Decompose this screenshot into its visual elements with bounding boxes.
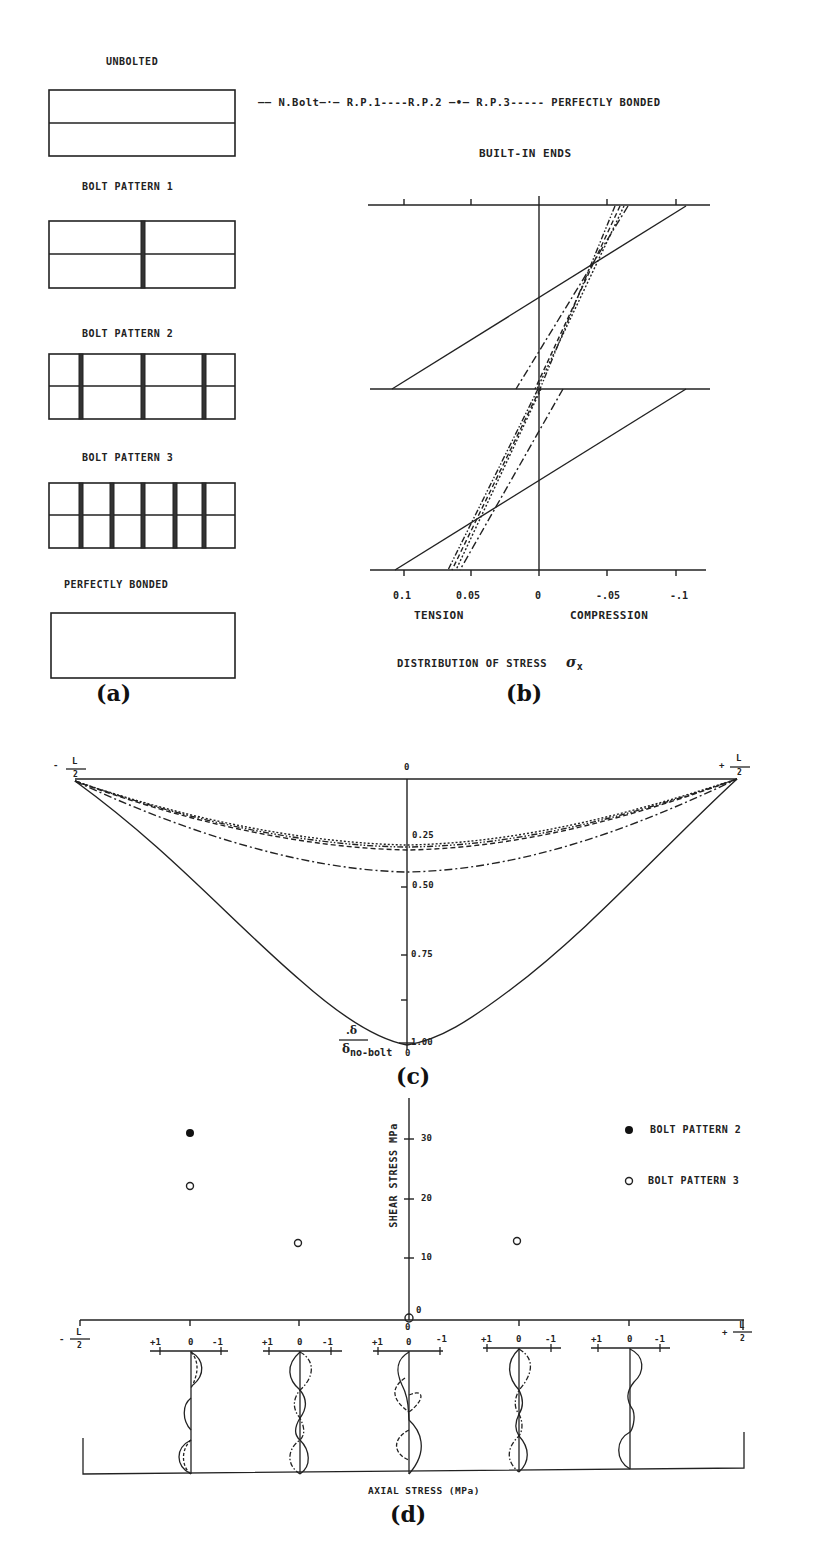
- left-end-d: -: [59, 1334, 64, 1344]
- panel-label-d: (d): [390, 1501, 426, 1527]
- st4-minus: -1: [545, 1334, 556, 1344]
- sigma-subscript: x: [577, 661, 584, 672]
- left-end-d-den: 2: [77, 1341, 82, 1350]
- ytick-c-0.75: 0.75: [411, 949, 433, 959]
- series-rp2-bottom: [452, 389, 540, 570]
- beam-diagrams: [49, 90, 235, 678]
- curve-rp2: [75, 779, 737, 850]
- chart-title-b: BUILT-IN ENDS: [479, 147, 572, 160]
- station-1: [150, 1347, 228, 1474]
- station-5: [591, 1344, 670, 1469]
- beam-bolt-pattern-1: [49, 221, 235, 288]
- ylabel-c-num: .δ: [346, 1024, 357, 1037]
- xtick-neg-0.1: -.1: [670, 590, 688, 601]
- right-end-c-num: L: [736, 753, 741, 763]
- delta-num: δ: [350, 1024, 357, 1037]
- legend-marker-bp2: [625, 1126, 633, 1134]
- st3-plus: +1: [372, 1337, 383, 1347]
- series-n-bolt-bottom: [395, 389, 686, 570]
- left-end-c-den: 2: [73, 770, 78, 779]
- station-3: [373, 1347, 443, 1474]
- st3-minus: -1: [436, 1334, 447, 1344]
- st4-plus: +1: [481, 1334, 492, 1344]
- xlabel-d: AXIAL STRESS (MPa): [368, 1485, 480, 1496]
- origin-label-d: 0: [405, 1322, 410, 1332]
- series-rp1-bottom: [460, 389, 563, 570]
- panel-label-c: (c): [396, 1063, 430, 1089]
- st1-minus: -1: [212, 1337, 223, 1347]
- curve-n-bolt: [75, 779, 737, 1045]
- xtick-0.05: 0.05: [456, 590, 480, 601]
- ytick-c-1.00: 1.00: [411, 1037, 433, 1047]
- right-end-c: +: [719, 760, 724, 770]
- left-end-d-num: L: [76, 1327, 81, 1337]
- ytick-c-0.50: 0.50: [412, 880, 434, 890]
- beam-bolt-pattern-3: [49, 483, 235, 548]
- series-rp3-top: [540, 206, 615, 389]
- stress-distribution-plot: [368, 196, 710, 576]
- legend-d-bp3: BOLT PATTERN 3: [648, 1175, 739, 1186]
- beam-perfectly-bonded: [51, 613, 235, 678]
- left-end-c-num: L: [72, 756, 77, 766]
- point-bp3: [187, 1183, 194, 1190]
- st5-plus: +1: [591, 1334, 602, 1344]
- ylabel-c-den: δno-bolt: [342, 1042, 392, 1058]
- compression-label: COMPRESSION: [570, 609, 648, 622]
- ytick-c-0: 0: [404, 762, 409, 772]
- curve-rp1: [75, 779, 737, 872]
- ytick-c-0-bottom: 0: [405, 1048, 410, 1058]
- tension-label: TENSION: [414, 609, 464, 622]
- point-bp2: [186, 1129, 194, 1137]
- axial-profiles: [83, 1344, 744, 1474]
- st1-zero: 0: [188, 1337, 193, 1347]
- legend-marker-bp3: [626, 1178, 633, 1185]
- ytick-d-10: 10: [421, 1252, 432, 1262]
- panel-label-b: (b): [506, 680, 542, 706]
- st3-zero: 0: [406, 1337, 411, 1347]
- left-end-c: -: [53, 760, 58, 770]
- delta-den-sub: no-bolt: [350, 1047, 392, 1058]
- ytick-c-0.25: 0.25: [412, 830, 434, 840]
- beam-bolt-pattern-2: [49, 354, 235, 419]
- ytick-d-0: 0: [416, 1305, 421, 1315]
- series-rp3-bottom: [448, 389, 538, 570]
- xlabel-b-text: DISTRIBUTION OF STRESS: [397, 657, 547, 669]
- station-4: [483, 1344, 561, 1472]
- right-end-d: +: [722, 1327, 727, 1337]
- right-end-c-den: 2: [737, 768, 742, 777]
- beam-unbolted: [49, 90, 235, 156]
- ytick-d-20: 20: [421, 1193, 432, 1203]
- series-perfectly-bonded-bottom: [456, 389, 541, 570]
- right-end-d-num: L: [739, 1320, 744, 1330]
- sigma-symbol: σ: [566, 654, 577, 670]
- point-bp3: [514, 1238, 521, 1245]
- xtick-neg-0.05: -.05: [596, 590, 620, 601]
- series-rp1-top: [516, 206, 628, 389]
- station-2: [263, 1347, 342, 1474]
- st5-zero: 0: [627, 1334, 632, 1344]
- deflection-plot: [75, 779, 737, 1050]
- st2-zero: 0: [297, 1337, 302, 1347]
- st2-minus: -1: [322, 1337, 333, 1347]
- st4-zero: 0: [516, 1334, 521, 1344]
- curve-perfectly-bonded: [75, 779, 737, 845]
- legend-b: —— N.Bolt—·— R.P.1----R.P.2 —•— R.P.3---…: [258, 96, 660, 108]
- shear-stress-plot: [80, 1098, 744, 1330]
- legend-d-bp2: BOLT PATTERN 2: [650, 1124, 741, 1135]
- delta-den: δ: [342, 1042, 350, 1056]
- st5-minus: -1: [654, 1334, 665, 1344]
- point-bp3: [295, 1240, 302, 1247]
- ylabel-d: SHEAR STRESS MPa: [388, 1106, 399, 1246]
- right-end-d-den: 2: [740, 1334, 745, 1343]
- xtick-0: 0: [535, 590, 541, 601]
- st1-plus: +1: [150, 1337, 161, 1347]
- ytick-d-30: 30: [421, 1133, 432, 1143]
- xtick-0.1: 0.1: [393, 590, 411, 601]
- st2-plus: +1: [262, 1337, 273, 1347]
- xlabel-b: DISTRIBUTION OF STRESS σx: [397, 654, 583, 672]
